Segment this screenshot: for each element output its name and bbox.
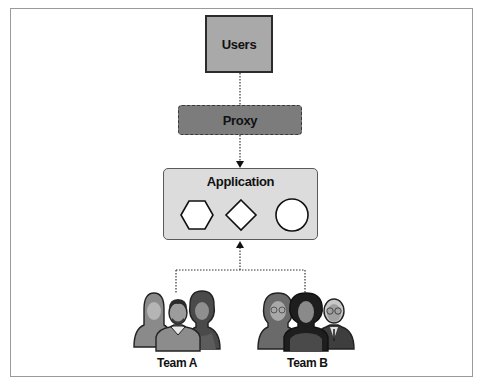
arrow-down-icon — [236, 161, 244, 168]
proxy-node: Proxy — [178, 105, 302, 135]
person-icon — [284, 293, 328, 351]
arrow-up-icon — [236, 241, 244, 248]
team-b-people-icon — [254, 287, 358, 353]
diamond-icon — [226, 200, 256, 230]
proxy-label: Proxy — [223, 113, 258, 128]
hexagon-icon — [181, 201, 213, 229]
application-shapes — [164, 195, 319, 235]
circle-icon — [276, 199, 308, 231]
team-a-label: Team A — [157, 356, 197, 370]
users-node: Users — [205, 15, 273, 73]
team-a-people-icon — [130, 287, 226, 353]
application-label: Application — [164, 174, 317, 189]
application-node: Application — [163, 168, 318, 240]
team-b-label: Team B — [287, 356, 328, 370]
users-label: Users — [222, 37, 257, 52]
